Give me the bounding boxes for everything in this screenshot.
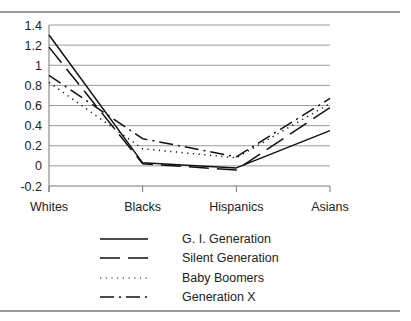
y-tick-label: 1 (35, 59, 42, 73)
legend-swatch-dash-dot-icon (100, 294, 148, 300)
x-tick-label: Hispanics (209, 200, 263, 214)
legend-label: G. I. Generation (182, 232, 271, 246)
legend-label: Generation X (182, 290, 256, 304)
x-tick-label: Asians (311, 200, 349, 214)
x-tick-label: Blacks (124, 200, 161, 214)
series-line (49, 75, 330, 157)
legend-swatch-long-dash-icon (100, 255, 148, 261)
y-tick-label: 0.4 (25, 119, 42, 133)
x-tick-label: Whites (30, 200, 68, 214)
y-tick-label: 0 (35, 159, 42, 173)
legend: G. I. Generation Silent Generation Baby … (100, 229, 279, 307)
legend-item-silent: Silent Generation (100, 249, 279, 269)
legend-label: Baby Boomers (182, 271, 264, 285)
y-tick-label: 0.8 (25, 79, 42, 93)
y-tick-label: -0.2 (20, 180, 42, 194)
bottom-rule (0, 310, 400, 312)
y-tick-label: 1.2 (25, 39, 42, 53)
y-tick-label: 1.4 (25, 19, 42, 33)
legend-item-boomers: Baby Boomers (100, 268, 279, 288)
legend-item-gi: G. I. Generation (100, 229, 279, 249)
legend-label: Silent Generation (182, 251, 279, 265)
legend-item-genx: Generation X (100, 288, 279, 308)
y-tick-label: 0.6 (25, 99, 42, 113)
line-chart: 1.41.210.80.60.40.20-0.2WhitesBlacksHisp… (0, 0, 411, 230)
legend-swatch-solid-icon (100, 236, 148, 242)
y-tick-label: 0.2 (25, 139, 42, 153)
legend-swatch-dotted-icon (100, 275, 148, 281)
